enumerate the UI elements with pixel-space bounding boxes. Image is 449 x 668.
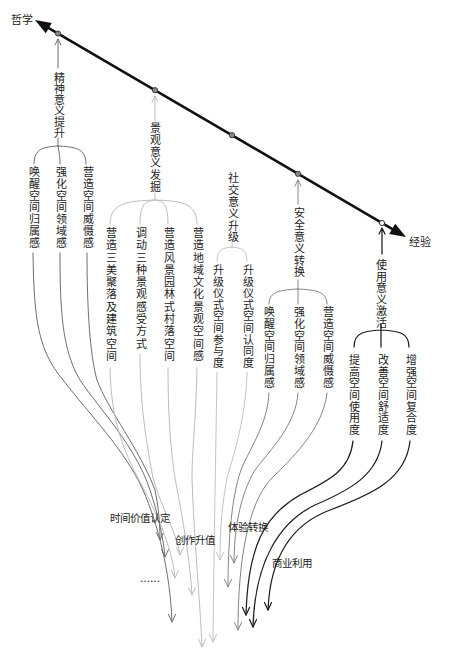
flow-arrow (235, 393, 328, 630)
flow-arrow (250, 441, 383, 627)
axis-label-experience: 经验 (409, 237, 431, 249)
brace (269, 280, 327, 304)
strategy-item: 调动三种景观感受方式 (135, 227, 146, 350)
outcome-creative-appreciation: 创作升值 (175, 534, 215, 546)
strategy-item: 增强空间复合度 (405, 354, 416, 436)
dimension-heading-usage: 使用意义激活 (375, 259, 386, 329)
outcome-ellipsis: ...... (140, 572, 160, 584)
strategy-item: 升级仪式空间参与度 (212, 264, 223, 368)
diagram-graphics (0, 0, 449, 668)
up-arrow-icon (55, 39, 61, 68)
dimension-heading-safety: 安全意义转换 (293, 207, 304, 278)
node-social (229, 133, 234, 138)
strategy-item: 改善空间舒适度 (377, 354, 388, 436)
outcome-time-value: 时间价值认定 (110, 512, 170, 524)
diagram: 哲学 经验 精神意义提升 景观意义发掘 社交意义升级 安全意义转换 使用意义激活… (0, 0, 449, 668)
main-axis (44, 25, 398, 232)
up-arrow-icon (379, 228, 385, 254)
up-arrow-icon (295, 180, 301, 204)
node-spiritual (55, 31, 60, 36)
strategy-item: 强化空间领域感 (55, 166, 66, 249)
up-arrow-icon (152, 96, 158, 121)
dimension-heading-spiritual: 精神意义提升 (53, 72, 64, 138)
strategy-item: 营造三美聚落及建筑空间 (105, 227, 116, 362)
node-usage (379, 220, 384, 225)
dimension-heading-landscape: 景观意义发掘 (149, 122, 160, 193)
outcome-experience-conversion: 体验转换 (228, 521, 268, 533)
strategy-item: 强化空间领域感 (293, 306, 304, 389)
axis-label-philosophy: 哲学 (11, 15, 33, 27)
strategy-item: 营造地域文化景观空间感 (192, 227, 203, 362)
strategy-item: 营造空间威慑感 (82, 166, 93, 249)
flow-arrow (192, 368, 206, 647)
outcome-commercial-use: 商业利用 (272, 557, 312, 569)
flow-arrow (210, 372, 218, 642)
flow-arrow (140, 354, 184, 555)
strategy-item: 提高空间使用度 (348, 354, 359, 436)
brace (34, 138, 86, 164)
brace (110, 193, 197, 224)
brace (217, 243, 247, 261)
axis-line (44, 25, 398, 232)
node-safety (295, 171, 300, 176)
arrowhead-left-icon (35, 20, 52, 33)
dimension-heading-social: 社交意义升级 (227, 172, 238, 243)
strategy-item: 升级仪式空间认同度 (242, 264, 253, 368)
strategy-item: 唤醒空间归属感 (28, 166, 39, 249)
strategy-item: 营造风景园林式村落空间 (163, 227, 174, 362)
arrowhead-icon (177, 548, 184, 556)
arrowhead-right-icon (389, 224, 406, 237)
strategy-item: 唤醒空间归属感 (263, 306, 274, 389)
strategy-item: 营造空间威慑感 (322, 306, 333, 389)
node-landscape (152, 88, 157, 93)
